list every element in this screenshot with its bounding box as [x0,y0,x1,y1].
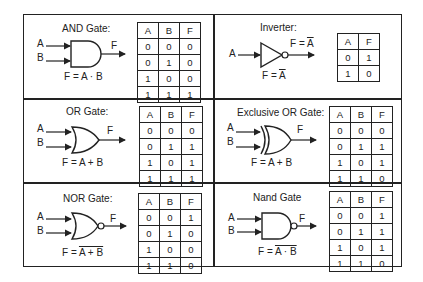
truth-table-cell: F [372,192,393,208]
truth-table-cell: 0 [351,208,372,224]
truth-table: ABF 001 011 101 110 [329,191,393,272]
truth-table-cell: 1 [351,256,372,272]
truth-table-cell: 1 [372,240,393,256]
truth-table-cell: A [330,192,351,208]
truth-table-cell: 0 [330,224,351,240]
truth-table-cell: B [351,192,372,208]
truth-table-cell: 1 [372,208,393,224]
truth-table-cell: 0 [372,256,393,272]
truth-table-cell: 1 [330,256,351,272]
truth-table-cell: 1 [372,224,393,240]
truth-table-cell: 0 [351,240,372,256]
gate-equation: F = A · B [258,246,297,257]
truth-table-cell: 1 [351,224,372,240]
truth-table-cell: 0 [330,208,351,224]
truth-table-cell: 1 [330,240,351,256]
